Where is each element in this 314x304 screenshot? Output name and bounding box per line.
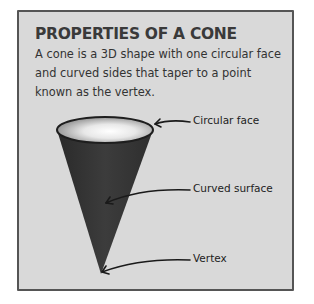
cone-curved-surface bbox=[57, 130, 153, 274]
arrow-vertex bbox=[102, 260, 190, 272]
arrow-circular-face bbox=[155, 121, 190, 124]
cone-circular-face bbox=[57, 117, 153, 143]
label-vertex: Vertex bbox=[193, 252, 227, 264]
label-circular-face: Circular face bbox=[193, 114, 259, 126]
cone-diagram bbox=[0, 0, 314, 304]
cone-shape bbox=[57, 117, 153, 274]
label-curved-surface: Curved surface bbox=[193, 182, 273, 194]
